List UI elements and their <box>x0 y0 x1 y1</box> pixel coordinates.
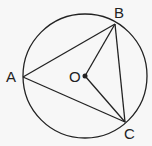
center-point <box>83 74 88 79</box>
segment-bc <box>115 24 125 122</box>
segment-oc <box>85 76 125 122</box>
label-c: C <box>124 125 135 142</box>
geometry-diagram: A B C O <box>0 0 152 146</box>
label-o: O <box>69 68 81 85</box>
label-a: A <box>6 68 16 85</box>
segment-ob <box>85 24 115 76</box>
label-b: B <box>114 4 124 21</box>
